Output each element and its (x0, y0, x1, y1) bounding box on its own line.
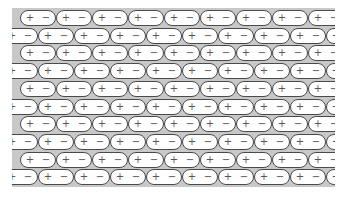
positive-sign: + (80, 66, 88, 76)
positive-sign: + (314, 119, 322, 129)
dipole-capsule: +− (308, 10, 335, 26)
negative-sign: − (60, 102, 68, 112)
dipole-capsule: +− (290, 99, 326, 115)
dipole-capsule: +− (182, 63, 218, 79)
negative-sign: − (276, 102, 284, 112)
dipole-capsule: +− (92, 81, 128, 97)
dipole-capsule: +− (38, 99, 74, 115)
positive-sign: + (62, 155, 70, 165)
positive-sign: + (206, 48, 214, 58)
positive-sign: + (260, 172, 268, 182)
negative-sign: − (330, 13, 335, 23)
positive-sign: + (152, 137, 160, 147)
dipole-capsule: +− (218, 169, 254, 185)
positive-sign: + (188, 31, 196, 41)
negative-sign: − (240, 102, 248, 112)
positive-sign: + (44, 31, 52, 41)
positive-sign: + (260, 66, 268, 76)
positive-sign: + (242, 84, 250, 94)
dipole-capsule: +− (146, 28, 182, 44)
positive-sign: + (12, 172, 16, 182)
negative-sign: − (258, 119, 266, 129)
negative-sign: − (186, 119, 194, 129)
negative-sign: − (150, 13, 158, 23)
negative-sign: − (168, 172, 176, 182)
dipole-capsule: +− (20, 81, 56, 97)
positive-sign: + (224, 31, 232, 41)
positive-sign: + (26, 155, 34, 165)
positive-sign: + (260, 31, 268, 41)
dipole-row: +−+−+−+−+−+−+−+−+−+− (12, 134, 335, 150)
negative-sign: − (24, 172, 32, 182)
negative-sign: − (312, 102, 320, 112)
negative-sign: − (222, 13, 230, 23)
dipole-capsule: +− (146, 99, 182, 115)
dipole-capsule: +− (146, 63, 182, 79)
dipole-capsule: +− (110, 63, 146, 79)
dipole-capsule: +− (74, 63, 110, 79)
positive-sign: + (44, 102, 52, 112)
dipole-capsule: +− (326, 63, 335, 79)
negative-sign: − (258, 155, 266, 165)
negative-sign: − (60, 66, 68, 76)
positive-sign: + (188, 137, 196, 147)
dipole-capsule: +− (254, 28, 290, 44)
dipole-capsule: +− (92, 116, 128, 132)
dipole-row: +−+−+−+−+−+−+−+−+− (12, 10, 335, 26)
positive-sign: + (296, 66, 304, 76)
negative-sign: − (276, 66, 284, 76)
dipole-capsule: +− (200, 45, 236, 61)
positive-sign: + (98, 119, 106, 129)
positive-sign: + (152, 31, 160, 41)
dipole-row: +−+−+−+−+−+−+−+−+−+− (12, 28, 335, 44)
positive-sign: + (314, 155, 322, 165)
dipole-capsule: +− (254, 134, 290, 150)
dipole-capsule: +− (20, 45, 56, 61)
positive-sign: + (296, 102, 304, 112)
negative-sign: − (312, 172, 320, 182)
negative-sign: − (222, 48, 230, 58)
dipole-capsule: +− (326, 169, 335, 185)
positive-sign: + (296, 137, 304, 147)
positive-sign: + (80, 102, 88, 112)
dipole-capsule: +− (38, 63, 74, 79)
dipole-capsule: +− (56, 10, 92, 26)
dipole-capsule: +− (92, 152, 128, 168)
dipole-capsule: +− (128, 45, 164, 61)
negative-sign: − (222, 84, 230, 94)
dipole-capsule: +− (74, 134, 110, 150)
negative-sign: − (78, 155, 86, 165)
dipole-capsule: +− (326, 28, 335, 44)
negative-sign: − (294, 84, 302, 94)
negative-sign: − (114, 48, 122, 58)
negative-sign: − (240, 31, 248, 41)
dipole-capsule: +− (254, 169, 290, 185)
positive-sign: + (62, 84, 70, 94)
negative-sign: − (186, 13, 194, 23)
dipole-capsule: +− (12, 134, 38, 150)
dipole-capsule: +− (308, 45, 335, 61)
positive-sign: + (62, 48, 70, 58)
negative-sign: − (222, 119, 230, 129)
negative-sign: − (294, 119, 302, 129)
negative-sign: − (78, 84, 86, 94)
positive-sign: + (314, 48, 322, 58)
negative-sign: − (42, 84, 50, 94)
negative-sign: − (186, 48, 194, 58)
negative-sign: − (24, 137, 32, 147)
negative-sign: − (132, 137, 140, 147)
negative-sign: − (132, 172, 140, 182)
dipole-capsule: +− (326, 99, 335, 115)
dipole-capsule: +− (272, 81, 308, 97)
negative-sign: − (96, 102, 104, 112)
dipole-capsule: +− (236, 116, 272, 132)
negative-sign: − (150, 155, 158, 165)
positive-sign: + (170, 13, 178, 23)
dipole-capsule: +− (164, 10, 200, 26)
positive-sign: + (260, 137, 268, 147)
dipole-capsule: +− (146, 169, 182, 185)
dipole-capsule: +− (290, 63, 326, 79)
positive-sign: + (26, 48, 34, 58)
negative-sign: − (96, 66, 104, 76)
negative-sign: − (204, 31, 212, 41)
